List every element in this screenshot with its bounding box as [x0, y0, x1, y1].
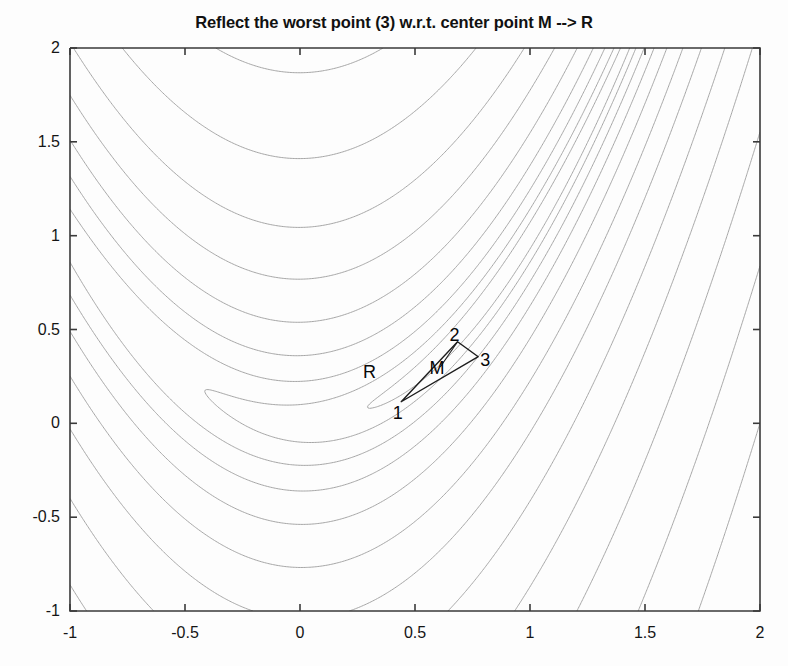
contour-line: [515, 48, 753, 611]
figure-container: Reflect the worst point (3) w.r.t. cente…: [0, 0, 788, 666]
contour-line: [70, 429, 253, 611]
contour-line: [70, 48, 667, 524]
x-axis-tick-label: 1.5: [634, 624, 656, 642]
contour-line: [70, 48, 605, 381]
y-axis-tick-label: -0.5: [8, 508, 60, 526]
x-axis-tick-label: 0.5: [404, 624, 426, 642]
contour-line: [70, 48, 555, 279]
vertex-2-label: 2: [450, 325, 460, 346]
x-axis-tick-label: 0: [296, 624, 305, 642]
y-axis-tick-label: 2: [8, 39, 60, 57]
y-axis-tick-label: 0.5: [8, 321, 60, 339]
y-axis-tick-label: 1.5: [8, 133, 60, 151]
contour-line: [698, 423, 760, 611]
axis-tickmarks: [70, 48, 760, 611]
contour-line: [122, 48, 476, 159]
vertex-3-label: 3: [480, 350, 490, 371]
contour-line: [70, 48, 577, 322]
x-axis-tick-label: -0.5: [171, 624, 199, 642]
x-axis-tick-label: -1: [63, 624, 77, 642]
x-axis-tick-label: 2: [756, 624, 765, 642]
contour-line: [349, 48, 701, 611]
vertex-1-label: 1: [393, 403, 403, 424]
axes-frame: [70, 48, 760, 611]
contour-line: [73, 48, 524, 227]
contour-line-group: [70, 48, 760, 611]
contour-line: [577, 132, 760, 611]
x-axis-tick-label: 1: [526, 624, 535, 642]
contour-line: [70, 48, 593, 356]
centroid-M-label: M: [430, 357, 445, 378]
y-axis-tick-label: 0: [8, 414, 60, 432]
contour-line: [70, 48, 683, 567]
reflected-R-label: R: [363, 361, 376, 382]
contour-line: [70, 585, 87, 611]
contour-line: [70, 48, 654, 491]
contour-line: [70, 498, 154, 611]
y-axis-tick-label: -1: [8, 602, 60, 620]
contour-plot: [0, 0, 788, 666]
y-axis-tick-label: 1: [8, 227, 60, 245]
